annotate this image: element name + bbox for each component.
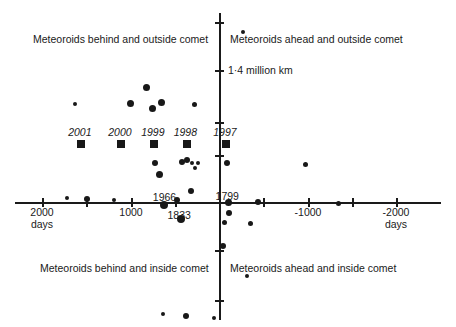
storm-year-label: 1966 <box>153 191 176 203</box>
data-point <box>226 210 232 216</box>
data-point <box>220 243 226 249</box>
data-point <box>112 198 116 202</box>
data-point <box>212 316 216 320</box>
encounter-year-label: 2000 <box>108 126 131 138</box>
meteoroid-encounter-scatter-chart: 2000days 1000 -1000 -2000days 1·4 millio… <box>0 0 456 327</box>
data-point <box>241 30 245 34</box>
data-point <box>156 171 163 178</box>
data-point <box>255 199 261 205</box>
encounter-year-label: 1997 <box>213 126 236 138</box>
data-point <box>161 312 165 316</box>
data-point <box>158 99 165 106</box>
data-point <box>193 166 197 170</box>
data-point <box>245 274 249 278</box>
data-point <box>143 84 150 91</box>
encounter-year-label: 1999 <box>141 126 164 138</box>
encounter-year-label: 1998 <box>174 126 197 138</box>
encounter-year-marker <box>183 140 191 148</box>
data-point <box>303 162 308 167</box>
data-point <box>65 196 69 200</box>
data-point <box>188 188 194 194</box>
encounter-year-marker <box>150 140 158 148</box>
data-point <box>127 100 134 107</box>
data-point <box>183 313 189 319</box>
encounter-year-marker <box>222 140 230 148</box>
encounter-year-marker <box>117 140 125 148</box>
data-point <box>222 220 227 225</box>
data-point <box>149 105 156 112</box>
data-point <box>184 157 190 163</box>
data-point <box>190 161 194 165</box>
encounter-year-label: 2001 <box>68 126 91 138</box>
data-point <box>224 160 230 166</box>
data-point <box>196 161 200 165</box>
storm-year-label: 1833 <box>168 209 191 221</box>
data-point <box>73 102 77 106</box>
storm-year-label: 1799 <box>216 190 239 202</box>
plot-data-layer: 20012000199919981997196618331799 <box>0 0 456 327</box>
data-point <box>336 201 341 206</box>
data-point <box>84 196 90 202</box>
data-point <box>152 160 158 166</box>
data-point <box>192 102 197 107</box>
data-point <box>248 221 253 226</box>
encounter-year-marker <box>77 140 85 148</box>
